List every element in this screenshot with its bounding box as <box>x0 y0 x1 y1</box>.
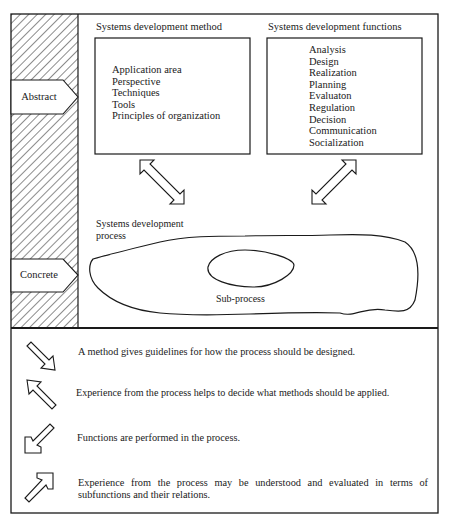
function-item: Decision <box>309 114 377 126</box>
function-item: Socialization <box>309 137 377 149</box>
arrow-up-right-icon <box>25 473 53 502</box>
subprocess-label: Sub-process <box>216 293 265 305</box>
process-title-line1: Systems development <box>96 218 184 230</box>
functions-items-list: Analysis Design Realization Planning Eva… <box>309 44 377 148</box>
method-item: Tools <box>112 99 220 111</box>
arrow-down-left-icon <box>25 424 54 453</box>
method-item: Techniques <box>112 87 220 99</box>
method-item: Principles of organization <box>112 110 220 122</box>
legend-text-method-guidelines: A method gives guidelines for how the pr… <box>78 346 355 358</box>
legend-text-experience-methods: Experience from the process helps to dec… <box>76 387 389 399</box>
abstract-label: Abstract <box>14 91 64 102</box>
function-item: Analysis <box>309 44 377 56</box>
process-title: Systems development process <box>96 218 184 241</box>
function-item: Regulation <box>309 102 377 114</box>
diagram-canvas <box>0 0 450 524</box>
method-box-title: Systems development method <box>96 21 222 33</box>
function-item: Evaluaton <box>309 90 377 102</box>
method-process-arrow <box>140 160 184 204</box>
method-items-list: Application area Perspective Techniques … <box>112 64 220 122</box>
process-title-line2: process <box>96 230 184 242</box>
legend-text-functions-performed: Functions are performed in the process. <box>77 432 240 444</box>
arrow-up-left-icon <box>27 380 56 409</box>
method-item: Perspective <box>112 76 220 88</box>
functions-box-title: Systems development functions <box>268 21 402 33</box>
function-item: Communication <box>309 125 377 137</box>
concrete-label: Concrete <box>14 269 64 280</box>
function-item: Design <box>309 56 377 68</box>
function-item: Realization <box>309 67 377 79</box>
functions-process-arrow <box>312 160 356 204</box>
subprocess-shape <box>208 250 294 287</box>
function-item: Planning <box>309 79 377 91</box>
method-item: Application area <box>112 64 220 76</box>
arrow-down-right-icon <box>27 342 55 370</box>
legend-text-experience-subfunctions: Experience from the process may be under… <box>78 477 428 501</box>
